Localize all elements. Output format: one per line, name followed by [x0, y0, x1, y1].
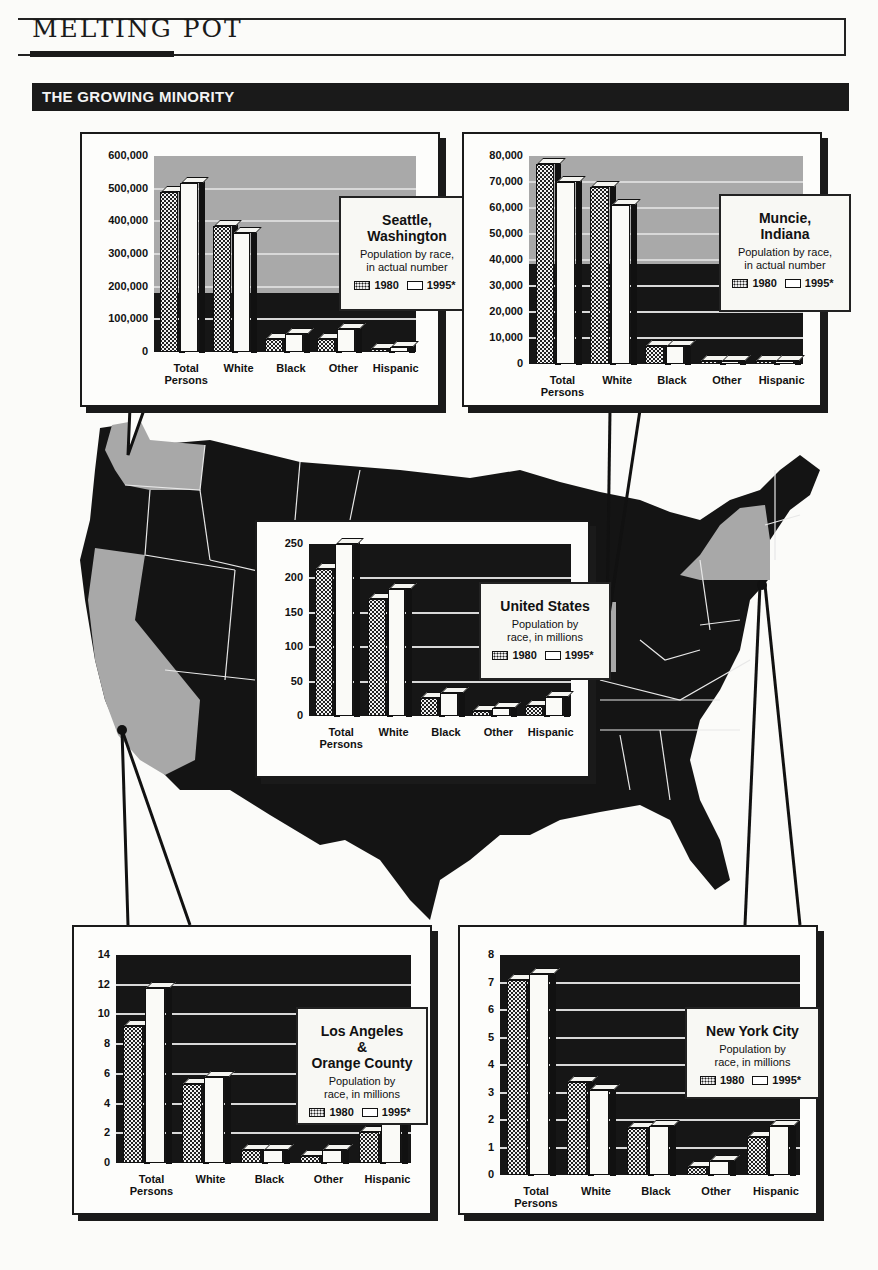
legend-swatch-1980 [492, 651, 508, 660]
bar-white-1980 [368, 599, 386, 716]
bar-shadow [550, 969, 556, 1176]
x-axis-label: Black [239, 1173, 301, 1185]
bar-total-persons-1980 [160, 192, 178, 352]
legend-label: 1980 [329, 1106, 353, 1118]
x-axis-label: Other [298, 1173, 360, 1185]
y-tick-label: 12 [50, 978, 110, 990]
chart-title: Seattle,Washington [341, 212, 473, 244]
bar-total-persons-1980 [123, 1026, 143, 1163]
bar-black-1980 [420, 698, 438, 716]
bar-shadow [251, 228, 257, 353]
y-tick-label: 8 [50, 1037, 110, 1049]
x-axis-label: TotalPersons [505, 1185, 567, 1209]
y-tick-label: 150 [243, 606, 303, 618]
bar-hispanic-1995 [545, 697, 563, 716]
bar-other-1980 [300, 1156, 320, 1163]
x-axis-label: Hispanic [520, 726, 582, 738]
y-tick-label: 0 [463, 357, 523, 369]
legend-swatch-1995 [785, 279, 801, 288]
bar-black-1980 [265, 339, 283, 352]
x-axis-label: Hispanic [357, 1173, 419, 1185]
legend-box: United StatesPopulation byrace, in milli… [479, 582, 611, 680]
bar-total-persons-1995 [556, 182, 575, 364]
marker-los-angeles [117, 725, 127, 735]
chart-panel-us: 050100150200250TotalPersonsWhiteBlackOth… [255, 520, 590, 778]
y-tick-label: 0 [243, 709, 303, 721]
y-tick-label: 10,000 [463, 331, 523, 343]
bar-hispanic-1980 [747, 1137, 767, 1176]
y-tick-label: 4 [50, 1097, 110, 1109]
x-axis-label: TotalPersons [121, 1173, 183, 1197]
y-tick-label: 250 [243, 537, 303, 549]
bar-other-1995 [337, 329, 355, 352]
chart-panel-nyc: 012345678TotalPersonsWhiteBlackOtherHisp… [458, 925, 818, 1215]
bar-total-persons-1980 [536, 164, 555, 364]
bar-black-1995 [649, 1126, 669, 1176]
y-tick-label: 0 [88, 345, 148, 357]
chart-panel-seattle: 0100,000200,000300,000400,000500,000600,… [80, 132, 440, 407]
x-axis-label: White [586, 374, 648, 386]
bar-black-1980 [241, 1150, 261, 1163]
legend-label: 1995* [427, 279, 456, 291]
bar-other-1995 [721, 361, 740, 364]
y-tick-label: 14 [50, 948, 110, 960]
bar-total-persons-1995 [145, 988, 165, 1163]
y-tick-label: 2 [434, 1113, 494, 1125]
bar-black-1980 [627, 1128, 647, 1175]
y-tick-label: 7 [434, 976, 494, 988]
y-tick-label: 400,000 [88, 214, 148, 226]
chart-title: New York City [687, 1023, 818, 1039]
x-axis-label: Other [685, 1185, 747, 1197]
legend-keys: 19801995* [481, 649, 609, 661]
bar-shadow [790, 1121, 796, 1177]
legend-swatch-1980 [700, 1076, 716, 1085]
x-axis-label: Hispanic [745, 1185, 807, 1197]
chart-title: Los Angeles&Orange County [298, 1023, 426, 1071]
y-tick-label: 8 [434, 948, 494, 960]
bar-other-1995 [709, 1161, 729, 1175]
y-tick-label: 10 [50, 1007, 110, 1019]
chart-subtitle: Population byrace, in millions [481, 618, 609, 644]
legend-label: 1980 [374, 279, 398, 291]
y-tick-label: 3 [434, 1086, 494, 1098]
bar-total-persons-1995 [335, 544, 353, 716]
legend-keys: 19801995* [298, 1106, 426, 1118]
bar-white-1995 [204, 1077, 224, 1163]
legend-label: 1995* [565, 649, 594, 661]
legend-keys: 19801995* [341, 279, 473, 291]
legend-swatch-1995 [752, 1076, 768, 1085]
bar-shadow [670, 1121, 676, 1177]
bar-hispanic-1980 [525, 706, 543, 716]
y-tick-label: 100,000 [88, 312, 148, 324]
y-tick-label: 40,000 [463, 253, 523, 265]
bar-black-1995 [440, 693, 458, 716]
x-axis-label: Black [641, 374, 703, 386]
chart-title: Muncie,Indiana [721, 210, 849, 242]
chart-panel-muncie: 010,00020,00030,00040,00050,00060,00070,… [462, 132, 822, 407]
x-axis-label: Other [696, 374, 758, 386]
legend-label: 1995* [805, 277, 834, 289]
y-tick-label: 60,000 [463, 201, 523, 213]
legend-box: Los Angeles&Orange CountyPopulation byra… [296, 1007, 428, 1125]
bar-total-persons-1995 [529, 974, 549, 1175]
bar-hispanic-1995 [390, 347, 408, 352]
chart-subtitle: Population by race,in actual number [721, 246, 849, 272]
plot-area: United StatesPopulation byrace, in milli… [309, 544, 571, 716]
bar-other-1980 [472, 711, 490, 716]
legend-keys: 19801995* [687, 1074, 818, 1086]
bar-hispanic-1995 [775, 361, 794, 364]
y-tick-label: 50,000 [463, 227, 523, 239]
bar-total-persons-1980 [315, 569, 333, 716]
legend-swatch-1995 [545, 651, 561, 660]
bar-other-1980 [700, 361, 719, 364]
bar-other-1995 [322, 1150, 342, 1163]
y-tick-label: 20,000 [463, 305, 523, 317]
bar-shadow [406, 584, 412, 717]
bar-hispanic-1980 [755, 361, 774, 364]
y-tick-label: 30,000 [463, 279, 523, 291]
x-axis-label: Black [625, 1185, 687, 1197]
bar-white-1995 [388, 589, 406, 716]
legend-swatch-1995 [407, 281, 423, 290]
bar-shadow [354, 539, 360, 717]
y-tick-label: 5 [434, 1031, 494, 1043]
